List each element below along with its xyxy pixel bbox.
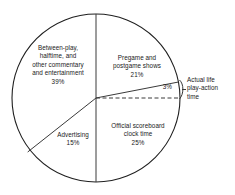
slice-percent: 15% [44,139,102,147]
pie-chart: Between-play, halftime, and other commen… [0,0,235,195]
slice-label-official-scoreboard: Official scoreboard clock time 25% [100,122,176,147]
callout-label-line2: play-action [187,84,218,91]
callout-label-line3: time [187,93,199,100]
callout-label-line1: Actual life [187,76,215,83]
slice-label-line1: Pregame and [118,54,156,61]
slice-label-line4: and entertainment [32,69,84,76]
slice-label-line1: Advertising [57,131,89,138]
slice-label-advertising: Advertising 15% [44,131,102,148]
slice-percent: 21% [104,71,170,79]
slice-label-line2: postgame shows [113,62,161,69]
callout-label-actual-play-action: Actual life play-action time [187,76,233,101]
slice-label-line2: clock time [124,130,153,137]
slice-label-between-play: Between-play, halftime, and other commen… [16,44,100,86]
slice-label-line1: Between-play, [38,44,78,51]
slice-percent: 25% [100,139,176,147]
slice-label-line2: halftime, and [40,52,77,59]
slice-label-pregame-postgame: Pregame and postgame shows 21% [104,54,170,79]
slice-percent-actual-play-action: 3% [152,83,172,91]
slice-label-line1: Official scoreboard [111,122,164,129]
slice-label-line3: other commentary [32,61,84,68]
slice-percent: 39% [16,78,100,86]
